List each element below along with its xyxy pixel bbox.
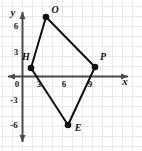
y-tick-minus-3: -3	[10, 95, 18, 105]
coordinate-plane-figure: y x 0 3 6 9 6 3 -3 -6 H O P E	[0, 0, 142, 151]
y-tick-3: 3	[14, 47, 19, 57]
y-axis-title: y	[9, 6, 16, 18]
y-tick-6: 6	[14, 21, 19, 31]
vertex-label-e: E	[74, 122, 82, 133]
x-tick-6: 6	[62, 79, 67, 89]
vertex-label-h: H	[21, 51, 31, 62]
vertex-dot-o	[43, 14, 50, 21]
vertex-dot-p	[92, 64, 99, 71]
vertex-dot-e	[65, 122, 72, 129]
y-tick-minus-6: -6	[10, 120, 18, 130]
x-tick-0: 0	[15, 79, 20, 89]
coordinate-plot: y x 0 3 6 9 6 3 -3 -6 H O P E	[0, 0, 142, 151]
vertex-label-o: O	[51, 4, 58, 15]
x-axis-title: x	[121, 75, 128, 87]
vertex-dot-h	[28, 65, 35, 72]
vertex-label-p: P	[100, 51, 107, 62]
